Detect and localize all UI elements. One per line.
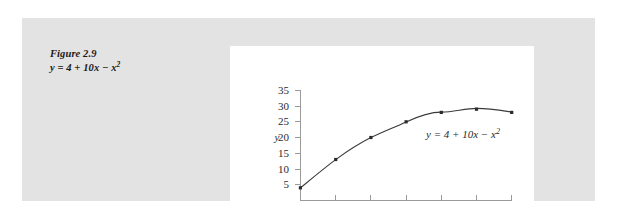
x-tick-label: 3	[403, 208, 409, 210]
data-points	[299, 108, 514, 190]
curve-equation-label: y = 4 + 10x − x2	[425, 127, 500, 140]
figure-caption-equation-exponent: 2	[117, 60, 121, 69]
x-tick-label: 6	[509, 208, 515, 210]
page-root: Figure 2.9 y = 4 + 10x − x2	[0, 0, 617, 219]
y-tick-label: 10	[278, 163, 290, 175]
y-tick-label: 15	[278, 147, 290, 159]
figure-panel: Figure 2.9 y = 4 + 10x − x2	[22, 18, 595, 201]
y-tick-label: 20	[278, 131, 290, 143]
x-tick-label: 1	[333, 208, 339, 210]
curve-equation-exponent: 2	[496, 127, 500, 136]
y-tick-label: 25	[278, 115, 290, 127]
y-axis-ticks	[295, 91, 301, 185]
y-tick-labels: 35 30 25 20 15 10 5	[278, 84, 290, 190]
x-axis-ticks	[301, 195, 512, 201]
x-tick-label: 4	[439, 208, 445, 210]
figure-caption-title: Figure 2.9	[50, 47, 200, 61]
x-tick-label: 5	[474, 208, 480, 210]
figure-caption-equation-text: y = 4 + 10x − x	[50, 62, 117, 73]
chart-plot: 35 30 25 20 15 10 5 0 1 2 3 4 5 6	[230, 46, 534, 210]
y-tick-label: 5	[284, 178, 290, 190]
y-axis-label: y	[274, 131, 280, 143]
x-tick-label: 2	[368, 208, 374, 210]
y-tick-label: 30	[278, 100, 290, 112]
figure-caption: Figure 2.9 y = 4 + 10x − x2	[50, 47, 200, 75]
x-tick-labels: 0 1 2 3 4 5 6	[298, 208, 515, 210]
figure-caption-equation: y = 4 + 10x − x2	[50, 61, 200, 75]
x-tick-label: 0	[298, 208, 304, 210]
y-tick-label: 35	[278, 84, 290, 96]
chart-card: 35 30 25 20 15 10 5 0 1 2 3 4 5 6	[230, 46, 534, 210]
curve-equation-text: y = 4 + 10x − x	[425, 128, 496, 140]
